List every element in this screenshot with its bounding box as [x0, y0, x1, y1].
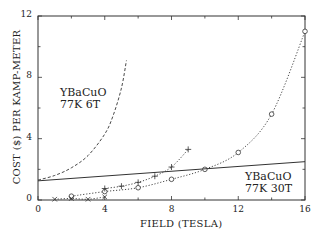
- plus-marker-icon: [152, 173, 158, 179]
- series-1: [102, 146, 191, 191]
- y-tick-label: 12: [12, 9, 32, 19]
- x-tick-label: 4: [102, 204, 108, 214]
- y-axis-label: COST ($) PER KAMP-METER: [11, 30, 22, 185]
- circle-marker-icon: [269, 112, 274, 117]
- x-axis-label: FIELD (TESLA): [140, 218, 222, 229]
- x-tick-label: 8: [169, 204, 175, 214]
- cross-marker-icon: [86, 197, 91, 202]
- circle-marker-icon: [136, 185, 141, 190]
- cross-marker-icon: [52, 197, 57, 202]
- x-tick-label: 12: [233, 204, 244, 214]
- plus-marker-icon: [118, 183, 124, 189]
- circle-marker-icon: [236, 150, 241, 155]
- circle-marker-icon: [303, 29, 308, 34]
- series-4: [38, 60, 126, 180]
- x-tick-label: 0: [35, 204, 41, 214]
- circle-marker-icon: [69, 194, 74, 199]
- annotation-30t-line2: 77K 30T: [245, 183, 292, 195]
- x-tick-label: 16: [299, 204, 310, 214]
- plus-marker-icon: [135, 179, 141, 185]
- chart-plot: [0, 0, 318, 238]
- y-tick-label: 0: [12, 193, 32, 203]
- annotation-77k-6t: YBaCuO 77K 6T: [60, 87, 106, 111]
- annotation-6t-line2: 77K 6T: [60, 99, 106, 111]
- annotation-77k-30t: YBaCuO 77K 30T: [245, 171, 292, 195]
- plus-marker-icon: [185, 146, 191, 152]
- circle-marker-icon: [169, 177, 174, 182]
- plus-marker-icon: [169, 164, 175, 170]
